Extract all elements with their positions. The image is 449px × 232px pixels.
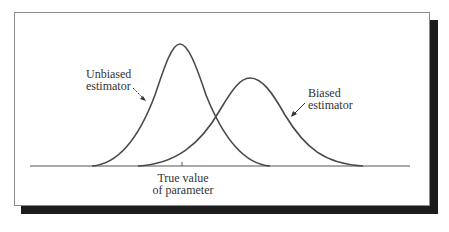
unbiased-label: Unbiased estimator: [86, 68, 138, 92]
unbiased-arrowhead-icon: [140, 96, 146, 101]
biased-label: Biased estimator: [308, 87, 360, 111]
true-value-label: True value of parameter: [148, 172, 218, 196]
true-value-label-line2: of parameter: [148, 184, 218, 196]
distribution-plot: [0, 0, 449, 232]
biased-arrow: [294, 103, 305, 114]
unbiased-curve: [92, 44, 270, 166]
unbiased-label-line2: estimator: [86, 80, 138, 92]
biased-label-line2: estimator: [308, 99, 360, 111]
